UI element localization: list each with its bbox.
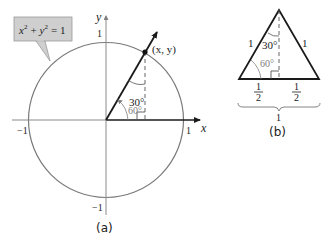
fraction-half-right: 1 2: [292, 81, 301, 103]
fraction-half-left: 1 2: [254, 81, 263, 103]
tick-y-neg: −1: [92, 202, 103, 213]
equation-callout-pointer: [36, 41, 50, 61]
side-left-label: 1: [248, 37, 254, 49]
base-total-label: 1: [276, 112, 281, 123]
tick-x-pos: 1: [186, 125, 191, 136]
tick-x-neg: −1: [17, 125, 28, 136]
angle-30-arc-b: [268, 33, 279, 36]
base-brace: [238, 103, 320, 111]
svg-text:1: 1: [256, 81, 261, 92]
figure-a: x y 1 −1 1 −1 (x, y) 30° 60° x2+y2= 1 (a…: [12, 10, 207, 235]
svg-text:2: 2: [256, 92, 261, 103]
side-right-label: 1: [302, 37, 308, 49]
unit-circle-figure: x y 1 −1 1 −1 (x, y) 30° 60° x2+y2= 1 (a…: [0, 0, 334, 241]
angle-30-arc: [129, 81, 146, 85]
svg-text:1: 1: [294, 81, 299, 92]
point-label: (x, y): [152, 43, 176, 56]
svg-text:2: 2: [294, 92, 299, 103]
angle-60-arc: [118, 100, 128, 120]
right-angle-marker-b: [271, 71, 279, 79]
x-axis-label: x: [200, 121, 207, 135]
angle-30-label-b: 30°: [262, 39, 277, 51]
y-axis-label: y: [95, 10, 102, 24]
tick-y-pos: 1: [97, 28, 102, 39]
point-xy: [142, 49, 147, 54]
figure-b: 30° 60° 1 1 1 2 1 2 1 (b): [238, 10, 320, 139]
angle-60-label: 60°: [128, 105, 142, 116]
angle-60-label-b: 60°: [260, 58, 274, 69]
caption-b: (b): [269, 125, 286, 139]
caption-a: (a): [96, 221, 113, 235]
